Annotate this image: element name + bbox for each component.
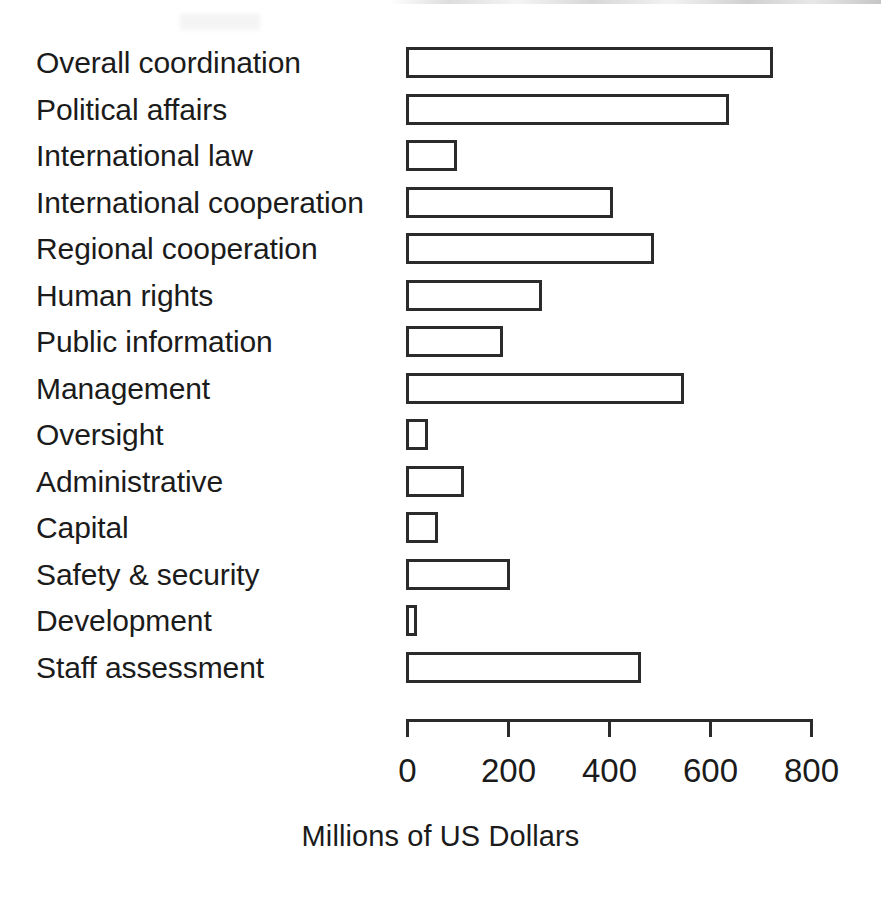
category-label: Development bbox=[36, 598, 396, 645]
bar bbox=[406, 94, 729, 125]
bar-row: International law bbox=[0, 133, 881, 180]
x-axis-tick bbox=[709, 719, 712, 737]
bar-row: Oversight bbox=[0, 412, 881, 459]
category-label: Safety & security bbox=[36, 552, 396, 599]
x-axis-tick bbox=[406, 719, 409, 737]
bar-row: Capital bbox=[0, 505, 881, 552]
bar bbox=[406, 419, 428, 450]
category-label: Management bbox=[36, 366, 396, 413]
category-label: Public information bbox=[36, 319, 396, 366]
bar-row: Political affairs bbox=[0, 87, 881, 134]
bar bbox=[406, 47, 773, 78]
bar bbox=[406, 512, 438, 543]
bar-row: Development bbox=[0, 598, 881, 645]
bar-row: Regional cooperation bbox=[0, 226, 881, 273]
category-label: Human rights bbox=[36, 273, 396, 320]
category-label: Staff assessment bbox=[36, 645, 396, 692]
category-label: Political affairs bbox=[36, 87, 396, 134]
bar-row: Staff assessment bbox=[0, 645, 881, 692]
category-label: Oversight bbox=[36, 412, 396, 459]
bar bbox=[406, 466, 464, 497]
x-axis-tick bbox=[810, 719, 813, 737]
bar bbox=[406, 187, 613, 218]
bar-row: International cooperation bbox=[0, 180, 881, 227]
category-label: Capital bbox=[36, 505, 396, 552]
bar bbox=[406, 559, 510, 590]
category-label: Overall coordination bbox=[36, 40, 396, 87]
bar bbox=[406, 280, 542, 311]
bar-row: Overall coordination bbox=[0, 40, 881, 87]
category-label: International cooperation bbox=[36, 180, 396, 227]
x-axis-title: Millions of US Dollars bbox=[0, 820, 881, 853]
category-label: International law bbox=[36, 133, 396, 180]
x-axis-tick bbox=[608, 719, 611, 737]
x-axis-tick-label: 800 bbox=[752, 751, 872, 791]
bar-row: Public information bbox=[0, 319, 881, 366]
bar-chart-figure: Overall coordinationPolitical affairsInt… bbox=[0, 0, 881, 901]
bar bbox=[406, 652, 641, 683]
bar bbox=[406, 233, 654, 264]
bar bbox=[406, 140, 457, 171]
bar bbox=[406, 326, 503, 357]
bar bbox=[406, 373, 684, 404]
bar bbox=[406, 605, 417, 636]
bar-row: Safety & security bbox=[0, 552, 881, 599]
category-label: Regional cooperation bbox=[36, 226, 396, 273]
category-label: Administrative bbox=[36, 459, 396, 506]
bar-row: Management bbox=[0, 366, 881, 413]
x-axis-tick bbox=[507, 719, 510, 737]
bar-row: Human rights bbox=[0, 273, 881, 320]
bar-row: Administrative bbox=[0, 459, 881, 506]
